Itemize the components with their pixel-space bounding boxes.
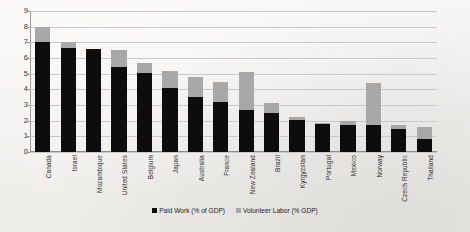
bar-segment-volunteer[interactable]: [188, 77, 203, 97]
x-category-label: Kyrgyzstan: [299, 155, 306, 188]
legend-item[interactable]: Paid Work (% of GDP): [152, 207, 225, 214]
x-category-label: Brazil: [274, 155, 281, 172]
y-tick-label: 2: [2, 116, 28, 125]
x-category-label: France: [223, 155, 230, 176]
bar-segment-paid[interactable]: [61, 48, 76, 152]
bar-segment-paid[interactable]: [188, 97, 203, 152]
x-category-label: Mozambique: [96, 155, 103, 193]
black-square-icon: [152, 208, 157, 213]
x-category-label: Norway: [376, 155, 383, 178]
y-tick-label: 0: [2, 147, 28, 156]
bar-segment-volunteer[interactable]: [264, 103, 279, 112]
x-category-label: Mexico: [350, 155, 357, 176]
bar-group[interactable]: [111, 50, 126, 152]
bar-group[interactable]: [162, 71, 177, 152]
x-category-label: Belgium: [147, 155, 154, 179]
chart-legend: Paid Work (% of GDP)Volunteer Labor (% G…: [0, 207, 470, 214]
legend-item[interactable]: Volunteer Labor (% GDP): [236, 207, 318, 214]
x-category-label: Australia: [198, 155, 205, 181]
bar-group[interactable]: [188, 77, 203, 152]
bar-segment-volunteer[interactable]: [366, 83, 381, 125]
bar-segment-paid[interactable]: [264, 113, 279, 152]
bar-group[interactable]: [417, 127, 432, 152]
bar-segment-volunteer[interactable]: [111, 50, 126, 67]
x-category-label: Thailand: [427, 155, 434, 181]
x-category-label: Czech Republic: [401, 155, 408, 202]
bar-group[interactable]: [213, 82, 228, 152]
bar-group[interactable]: [391, 125, 406, 152]
y-tick-label: 1: [2, 131, 28, 140]
bar-segment-volunteer[interactable]: [35, 27, 50, 43]
y-tick-label: 4: [2, 84, 28, 93]
bar-group[interactable]: [86, 49, 101, 152]
bar-segment-paid[interactable]: [213, 102, 228, 152]
bar-group[interactable]: [61, 42, 76, 152]
bar-segment-paid[interactable]: [35, 42, 50, 152]
y-tick-mark: [27, 152, 30, 153]
y-tick-label: 6: [2, 53, 28, 62]
legend-label: Paid Work (% of GDP): [159, 207, 225, 214]
bar-segment-paid[interactable]: [239, 110, 254, 152]
x-category-label: Portugal: [325, 155, 332, 180]
bar-segment-paid[interactable]: [86, 49, 101, 152]
bar-group[interactable]: [35, 27, 50, 152]
bar-segment-paid[interactable]: [391, 129, 406, 153]
bar-group[interactable]: [264, 103, 279, 152]
bar-group[interactable]: [239, 72, 254, 152]
y-tick-label: 8: [2, 22, 28, 31]
bar-segment-paid[interactable]: [162, 88, 177, 152]
stacked-bar-chart: 0123456789 CanadaIsraelMozambiqueUnited …: [0, 0, 470, 232]
bar-segment-volunteer[interactable]: [417, 127, 432, 139]
x-axis-category-labels: CanadaIsraelMozambiqueUnited StatesBelgi…: [30, 155, 437, 203]
bar-segment-volunteer[interactable]: [137, 63, 152, 73]
x-category-label: Israel: [71, 155, 78, 172]
bar-segment-paid[interactable]: [137, 73, 152, 152]
x-category-label: Canada: [45, 155, 52, 178]
bar-group[interactable]: [315, 123, 330, 152]
x-category-label: New Zealand: [249, 155, 256, 194]
y-tick-label: 7: [2, 37, 28, 46]
y-tick-label: 3: [2, 100, 28, 109]
bar-group[interactable]: [366, 83, 381, 152]
y-tick-label: 9: [2, 6, 28, 15]
legend-label: Volunteer Labor (% GDP): [243, 207, 318, 214]
gridline: [30, 152, 437, 153]
bar-segment-paid[interactable]: [366, 125, 381, 152]
x-category-label: United States: [121, 155, 128, 195]
x-category-label: Japan: [172, 155, 179, 173]
bar-segment-paid[interactable]: [340, 125, 355, 152]
plot-area: [30, 11, 437, 152]
bar-segment-paid[interactable]: [417, 139, 432, 152]
bar-segment-paid[interactable]: [111, 67, 126, 152]
bar-group[interactable]: [137, 63, 152, 152]
bar-segment-volunteer[interactable]: [213, 82, 228, 102]
gray-square-icon: [236, 208, 241, 213]
bar-series-container: [30, 11, 437, 152]
bar-segment-volunteer[interactable]: [239, 72, 254, 110]
bar-group[interactable]: [289, 117, 304, 152]
bar-segment-volunteer[interactable]: [162, 71, 177, 88]
bar-group[interactable]: [340, 121, 355, 152]
y-tick-label: 5: [2, 69, 28, 78]
bar-segment-paid[interactable]: [315, 124, 330, 152]
bar-segment-paid[interactable]: [289, 120, 304, 152]
